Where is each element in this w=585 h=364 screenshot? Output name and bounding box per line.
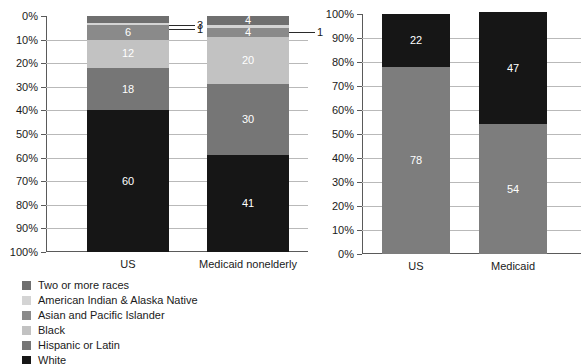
y-axis-tick bbox=[41, 87, 46, 88]
legend-item[interactable]: Asian and Pacific Islander bbox=[22, 309, 198, 322]
legend-item[interactable]: American Indian & Alaska Native bbox=[22, 294, 198, 307]
legend-item-label: White bbox=[38, 355, 66, 364]
y-axis-tick-label: 50% bbox=[16, 129, 38, 140]
bar-segment-value: 12 bbox=[122, 48, 134, 59]
bar-segment[interactable]: 33 bbox=[87, 16, 169, 23]
y-axis-tick bbox=[41, 63, 46, 64]
bar-us[interactable]: 7822US bbox=[382, 14, 450, 254]
bar-segment-value: 30 bbox=[242, 114, 254, 125]
y-axis-tick-label: 50% bbox=[332, 129, 354, 140]
y-axis-tick-label: 30% bbox=[16, 82, 38, 93]
y-axis-tick bbox=[41, 110, 46, 111]
legend-item-label: American Indian & Alaska Native bbox=[38, 295, 198, 306]
y-axis-tick bbox=[41, 40, 46, 41]
y-axis-tick bbox=[357, 14, 362, 15]
y-axis-tick-label: 0% bbox=[22, 11, 38, 22]
bar-segment-value: 54 bbox=[507, 184, 519, 195]
legend-item-label: Two or more races bbox=[38, 280, 129, 291]
y-axis-tick-label: 70% bbox=[332, 81, 354, 92]
legend-item-label: Black bbox=[38, 325, 65, 336]
bar-segment[interactable]: 4 bbox=[207, 16, 289, 25]
bar-segment[interactable]: 54 bbox=[479, 124, 547, 254]
y-axis-tick bbox=[357, 254, 362, 255]
bar-segment-value: 41 bbox=[242, 198, 254, 209]
y-axis-tick bbox=[41, 205, 46, 206]
y-axis-tick bbox=[357, 38, 362, 39]
bar-segment[interactable]: 12 bbox=[87, 40, 169, 68]
y-axis-tick-label: 70% bbox=[16, 176, 38, 187]
legend-swatch bbox=[22, 281, 31, 290]
bar-segment-value: 60 bbox=[122, 176, 134, 187]
y-axis-tick-label: 90% bbox=[332, 33, 354, 44]
y-axis-tick bbox=[357, 134, 362, 135]
bar-segment[interactable]: 41 bbox=[207, 155, 289, 252]
age-composition-chart-panel: 100%90%80%70%60%50%40%30%20%10%0%7822US5… bbox=[305, 0, 585, 364]
legend-item[interactable]: Black bbox=[22, 324, 198, 337]
bar-segment[interactable]: 60 bbox=[87, 110, 169, 252]
legend-item[interactable]: Hispanic or Latin bbox=[22, 339, 198, 352]
y-axis-tick bbox=[41, 158, 46, 159]
y-axis-tick-label: 100% bbox=[326, 9, 354, 20]
bar-segment[interactable]: 20 bbox=[207, 37, 289, 84]
y-axis-tick bbox=[357, 206, 362, 207]
bar-segment-value: 18 bbox=[122, 84, 134, 95]
bar-us[interactable]: 33116121860US bbox=[87, 16, 169, 252]
y-axis-tick-label: 10% bbox=[16, 35, 38, 46]
y-axis-tick-label: 20% bbox=[16, 58, 38, 69]
bar-segment[interactable]: 6 bbox=[87, 25, 169, 39]
bar-segment[interactable]: 30 bbox=[207, 84, 289, 155]
bar-segment-value: 20 bbox=[242, 55, 254, 66]
race-composition-chart-panel: 0%10%20%30%40%50%60%70%80%90%100%3311612… bbox=[0, 0, 305, 364]
y-axis-tick bbox=[357, 110, 362, 111]
bar-segment[interactable]: 4 bbox=[207, 28, 289, 37]
x-axis-tick-label: US bbox=[408, 261, 423, 272]
y-axis-tick-label: 60% bbox=[16, 153, 38, 164]
legend-item[interactable]: Two or more races bbox=[22, 279, 198, 292]
bar-segment[interactable]: 47 bbox=[479, 12, 547, 125]
legend-swatch bbox=[22, 326, 31, 335]
legend-item-label: Asian and Pacific Islander bbox=[38, 310, 165, 321]
bar-segment[interactable]: 18 bbox=[87, 68, 169, 110]
x-axis-tick-label: Medicaid bbox=[491, 261, 535, 272]
legend-swatch bbox=[22, 356, 31, 364]
bar-segment[interactable]: 22 bbox=[382, 14, 450, 67]
y-axis-tick-label: 80% bbox=[332, 57, 354, 68]
bar-segment-value: 47 bbox=[507, 63, 519, 74]
y-axis-tick-label: 60% bbox=[332, 105, 354, 116]
y-axis-tick bbox=[357, 86, 362, 87]
y-axis-tick bbox=[41, 181, 46, 182]
bar-segment-value: 6 bbox=[125, 27, 131, 38]
y-axis-tick-label: 40% bbox=[332, 153, 354, 164]
x-axis-tick-label: Medicaid nonelderly bbox=[199, 259, 297, 270]
bar-medicaid-nonelderly[interactable]: 4114203041Medicaid nonelderly bbox=[207, 16, 289, 252]
legend-swatch bbox=[22, 341, 31, 350]
y-axis-tick bbox=[357, 230, 362, 231]
y-axis-tick bbox=[41, 228, 46, 229]
y-axis-tick bbox=[357, 62, 362, 63]
race-composition-legend: Two or more racesAmerican Indian & Alask… bbox=[22, 279, 198, 364]
y-axis-tick-label: 0% bbox=[338, 249, 354, 260]
y-axis-tick bbox=[41, 16, 46, 17]
bar-segment-value: 78 bbox=[410, 155, 422, 166]
y-axis-tick-label: 90% bbox=[16, 223, 38, 234]
y-axis-tick bbox=[41, 134, 46, 135]
legend-swatch bbox=[22, 296, 31, 305]
bar-segment-value: 1 bbox=[197, 24, 203, 35]
bar-medicaid[interactable]: 5447Medicaid bbox=[479, 14, 547, 254]
bar-segment[interactable]: 78 bbox=[382, 67, 450, 254]
y-axis-tick-label: 10% bbox=[332, 225, 354, 236]
legend-swatch bbox=[22, 311, 31, 320]
y-axis-tick-label: 100% bbox=[10, 247, 38, 258]
y-axis-tick-label: 80% bbox=[16, 200, 38, 211]
y-axis-tick bbox=[41, 252, 46, 253]
legend-item[interactable]: White bbox=[22, 354, 198, 364]
y-axis-tick bbox=[357, 182, 362, 183]
x-axis-tick-label: US bbox=[120, 259, 135, 270]
y-axis-tick-label: 30% bbox=[332, 177, 354, 188]
bar-segment-callout: 1 bbox=[169, 24, 203, 35]
race-composition-plot-area: 0%10%20%30%40%50%60%70%80%90%100%3311612… bbox=[46, 16, 294, 252]
bar-segment-value: 22 bbox=[410, 35, 422, 46]
y-axis-tick-label: 20% bbox=[332, 201, 354, 212]
legend-item-label: Hispanic or Latin bbox=[38, 340, 120, 351]
callout-leader-line bbox=[169, 29, 195, 30]
